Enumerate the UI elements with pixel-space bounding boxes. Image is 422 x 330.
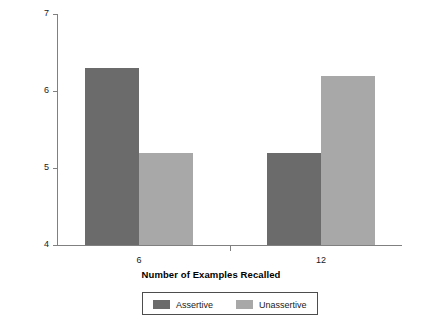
- y-axis-tick: [53, 168, 58, 169]
- bar: [85, 68, 139, 245]
- y-axis-tick-label: 6: [33, 86, 49, 95]
- legend-swatch: [236, 300, 253, 309]
- y-axis-tick: [53, 91, 58, 92]
- bar: [321, 76, 375, 245]
- bar: [139, 153, 193, 245]
- chart-figure: Rating of Assertiveness 4567 612 Number …: [0, 0, 422, 330]
- x-axis-tick-label: 6: [119, 255, 159, 265]
- legend-entry: Unassertive: [236, 298, 307, 311]
- legend-swatch: [153, 300, 170, 309]
- legend-label: Assertive: [176, 300, 213, 310]
- legend-label: Unassertive: [259, 300, 307, 310]
- y-axis-tick: [53, 14, 58, 15]
- y-axis-line: [57, 14, 58, 246]
- y-axis-tick-label: 5: [33, 163, 49, 172]
- x-axis-tick: [230, 246, 231, 251]
- x-axis-title: Number of Examples Recalled: [0, 269, 422, 280]
- bar: [267, 153, 321, 245]
- legend: AssertiveUnassertive: [142, 292, 318, 315]
- x-axis-tick-label: 12: [301, 255, 341, 265]
- y-axis-tick-label: 4: [33, 240, 49, 249]
- y-axis-tick-label: 7: [33, 9, 49, 18]
- legend-entry: Assertive: [153, 298, 213, 311]
